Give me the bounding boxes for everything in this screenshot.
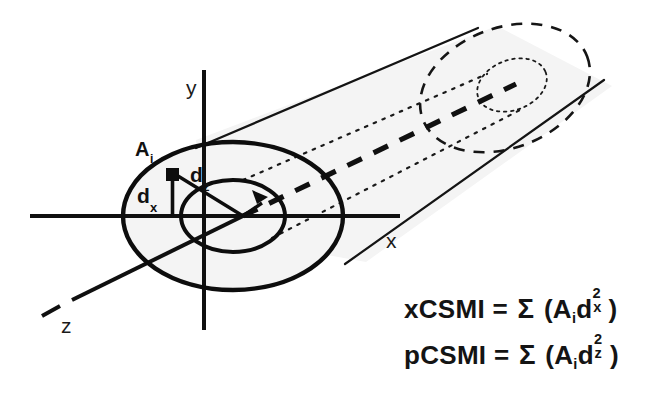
label-distance-dz-subscript: z (203, 179, 210, 194)
formula-xcsmi-close-paren: ) (609, 296, 618, 322)
z-axis-dash (42, 306, 60, 316)
formula-xcsmi-name: xCSMI (404, 296, 485, 322)
label-distance-dz: d (190, 163, 203, 186)
label-distance-dx: d (137, 184, 150, 207)
formula-pcsmi-axis-subscript: z (595, 346, 603, 361)
area-element-marker (166, 168, 179, 181)
formula-xcsmi-axis-subscript: x (593, 300, 601, 315)
formula-pcsmi-area: A (554, 342, 573, 368)
formula-pcsmi-exponent: 2 (594, 332, 602, 347)
formula-xcsmi: xCSMI = Σ (Aid2x) (404, 292, 618, 325)
formula-pcsmi-equals: = (494, 342, 509, 368)
label-axis-y: y (186, 76, 197, 99)
formula-pcsmi-close-paren: ) (610, 342, 619, 368)
label-area-element: A (135, 138, 149, 160)
formula-pcsmi-sigma: Σ (517, 341, 538, 369)
csmi-vector-diagram: A i d z d x y x z (0, 0, 667, 395)
formula-xcsmi-exponent-group: 2x (592, 292, 608, 318)
label-distance-dx-subscript: x (150, 200, 158, 215)
diagram-canvas: A i d z d x y x z xCSMI = Σ (Aid2x) pCSM… (0, 0, 667, 395)
label-axis-x: x (386, 229, 397, 252)
formula-xcsmi-d: d (576, 296, 592, 322)
formula-xcsmi-area: A (553, 296, 572, 322)
formula-xcsmi-sigma: Σ (516, 295, 537, 323)
formula-pcsmi-exponent-group: 2z (594, 338, 610, 364)
formula-pcsmi-d: d (578, 342, 594, 368)
formula-pcsmi-name: pCSMI (404, 342, 486, 368)
formula-xcsmi-equals: = (493, 296, 508, 322)
cylinder-body-shading (123, 26, 612, 290)
formula-xcsmi-open-paren: ( (544, 296, 553, 322)
label-axis-z: z (61, 314, 72, 337)
formula-pcsmi: pCSMI = Σ (Aid2z) (404, 338, 619, 371)
formula-pcsmi-open-paren: ( (545, 342, 554, 368)
label-area-element-subscript: i (150, 152, 153, 166)
formula-xcsmi-exponent: 2 (592, 286, 600, 301)
